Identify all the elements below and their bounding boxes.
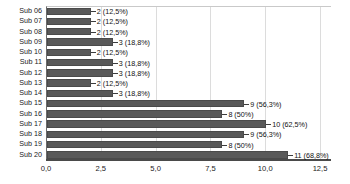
category-label: Sub 07 [0,16,42,26]
leader-line [91,21,96,22]
x-tick-label: 7,5 [205,164,216,173]
category-label: Sub 19 [0,139,42,149]
leader-line [113,93,118,94]
data-label: 2 (12,5%) [97,48,128,57]
category-label: Sub 17 [0,119,42,129]
bar-fill [47,49,91,56]
leader-line [222,114,227,115]
bar[interactable]: 9 (56,3%) [47,100,244,107]
bar[interactable]: 3 (18,8%) [47,38,113,45]
leader-line [266,124,271,125]
data-label: 3 (18,8%) [119,38,150,47]
x-tick-label: 10,0 [258,164,273,173]
bar-row: Sub 062 (12,5%) [0,6,350,16]
data-label: 9 (56,3%) [250,130,281,139]
category-label: Sub 09 [0,37,42,47]
category-label: Sub 20 [0,150,42,160]
bar-row: Sub 123 (18,8%) [0,68,350,78]
x-axis-tick-labels: 0,02,55,07,510,012,5 [0,164,350,180]
leader-line [91,32,96,33]
leader-line [244,134,249,135]
bar[interactable]: 2 (12,5%) [47,49,91,56]
bar[interactable]: 11 (68,8%) [47,151,288,158]
bar[interactable]: 2 (12,5%) [47,28,91,35]
bar[interactable]: 10 (62,5%) [47,120,266,127]
bar-row: Sub 143 (18,8%) [0,88,350,98]
bar-fill [47,69,113,76]
bar-row: Sub 2011 (68,8%) [0,150,350,160]
bar-row: Sub 082 (12,5%) [0,27,350,37]
leader-line [91,52,96,53]
bar-fill [47,151,288,158]
bar[interactable]: 8 (50%) [47,110,222,117]
data-label: 3 (18,8%) [119,58,150,67]
data-label: 8 (50%) [228,109,253,118]
leader-line [244,104,249,105]
bar-fill [47,79,91,86]
category-label: Sub 10 [0,47,42,57]
category-label: Sub 13 [0,78,42,88]
category-label: Sub 18 [0,129,42,139]
category-label: Sub 11 [0,57,42,67]
bar[interactable]: 3 (18,8%) [47,59,113,66]
bar-fill [47,100,244,107]
data-label: 9 (56,3%) [250,99,281,108]
bar[interactable]: 3 (18,8%) [47,69,113,76]
data-label: 2 (12,5%) [97,7,128,16]
bar[interactable]: 2 (12,5%) [47,18,91,25]
bar-row: Sub 189 (56,3%) [0,129,350,139]
data-label: 2 (12,5%) [97,79,128,88]
leader-line [91,83,96,84]
category-label: Sub 12 [0,68,42,78]
bar-row: Sub 093 (18,8%) [0,37,350,47]
bar[interactable]: 3 (18,8%) [47,90,113,97]
leader-line [222,145,227,146]
leader-line [113,73,118,74]
bar-row: Sub 132 (12,5%) [0,78,350,88]
data-label: 11 (68,8%) [294,150,329,159]
data-label: 2 (12,5%) [97,17,128,26]
data-label: 8 (50%) [228,140,253,149]
category-label: Sub 16 [0,109,42,119]
bar-row: Sub 102 (12,5%) [0,47,350,57]
x-tick-label: 0,0 [41,164,52,173]
x-tick-label: 2,5 [96,164,107,173]
bar[interactable]: 8 (50%) [47,141,222,148]
category-label: Sub 15 [0,98,42,108]
bar-rows: Sub 062 (12,5%)Sub 072 (12,5%)Sub 082 (1… [0,6,350,160]
bar-fill [47,131,244,138]
bar[interactable]: 2 (12,5%) [47,8,91,15]
bar-fill [47,38,113,45]
bar-fill [47,110,222,117]
bar-fill [47,141,222,148]
x-tick-label: 5,0 [150,164,161,173]
data-label: 3 (18,8%) [119,89,150,98]
bar-fill [47,90,113,97]
bar[interactable]: 9 (56,3%) [47,131,244,138]
bar-row: Sub 072 (12,5%) [0,16,350,26]
bar-fill [47,120,266,127]
bar-row: Sub 168 (50%) [0,109,350,119]
bar-row: Sub 1710 (62,5%) [0,119,350,129]
data-label: 10 (62,5%) [272,120,307,129]
leader-line [113,42,118,43]
data-label: 2 (12,5%) [97,27,128,36]
bar-row: Sub 159 (56,3%) [0,98,350,108]
category-label: Sub 06 [0,6,42,16]
bar[interactable]: 2 (12,5%) [47,79,91,86]
bar-fill [47,18,91,25]
category-label: Sub 14 [0,88,42,98]
x-tick-label: 12,5 [313,164,328,173]
bar-row: Sub 198 (50%) [0,139,350,149]
bar-fill [47,8,91,15]
data-label: 3 (18,8%) [119,68,150,77]
leader-line [113,63,118,64]
leader-line [91,11,96,12]
category-label: Sub 08 [0,27,42,37]
bar-chart: Sub 062 (12,5%)Sub 072 (12,5%)Sub 082 (1… [0,0,350,184]
bar-fill [47,59,113,66]
leader-line [288,155,293,156]
bar-fill [47,28,91,35]
bar-row: Sub 113 (18,8%) [0,57,350,67]
